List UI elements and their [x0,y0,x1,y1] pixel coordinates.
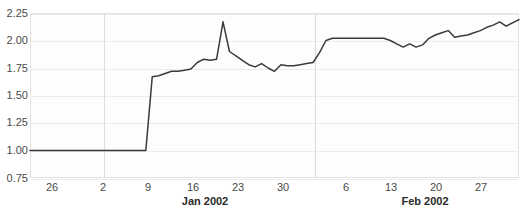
gridline-horizontal [31,179,518,180]
plot-area [30,13,519,178]
x-axis-month-label: Jan 2002 [182,195,228,207]
y-axis-tick-label: 0.75 [0,173,28,184]
gridline-month-divider [104,14,105,177]
x-axis-tick-label: 30 [277,181,289,193]
x-axis-tick-label: 20 [430,181,442,193]
x-axis-tick-label: 27 [475,181,487,193]
x-axis-tick-label: 26 [46,181,58,193]
y-axis-tick-label: 1.75 [0,63,28,74]
gridline-month-divider [315,14,316,177]
x-axis-tick-label: 13 [385,181,397,193]
x-axis-tick-label: 9 [145,181,151,193]
chart-screenshot: 2.252.001.751.501.251.000.75 26291623306… [0,0,524,211]
y-axis-tick-label: 1.25 [0,117,28,128]
x-axis-month-label: Feb 2002 [401,195,448,207]
y-axis-tick-label: 2.00 [0,35,28,46]
y-axis-tick-label: 1.00 [0,145,28,156]
x-axis-tick-label: 6 [343,181,349,193]
x-axis-tick-label: 16 [187,181,199,193]
y-axis-tick-label: 1.50 [0,90,28,101]
x-axis-tick-label: 23 [232,181,244,193]
y-axis: 2.252.001.751.501.251.000.75 [0,0,28,211]
y-axis-tick-label: 2.25 [0,8,28,19]
x-axis-tick-label: 2 [100,181,106,193]
chart-title-remnant [30,0,230,3]
